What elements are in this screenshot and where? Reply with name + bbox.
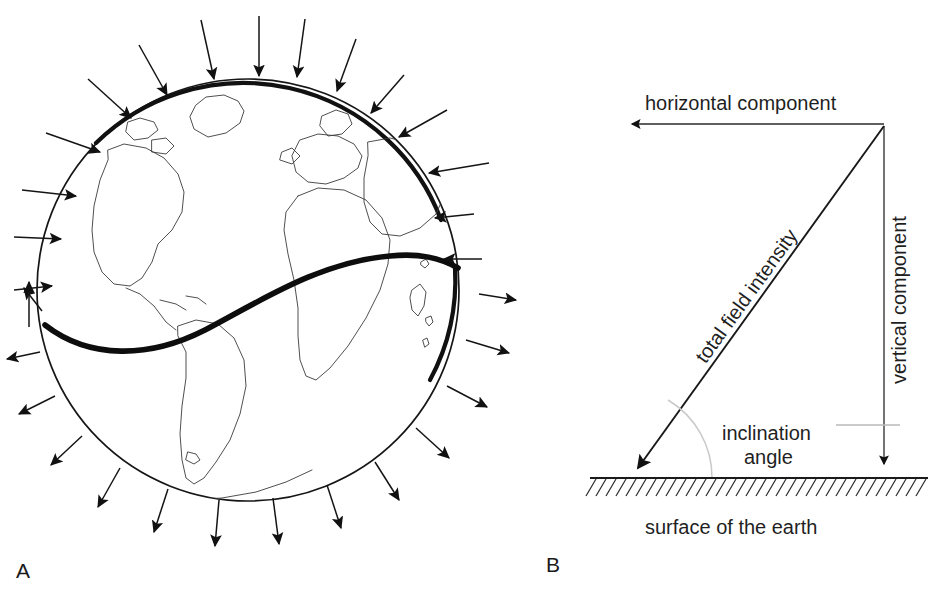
inclination-angle-label-line2: angle	[744, 446, 793, 468]
field-arrow-out	[416, 428, 449, 458]
globe-group: A	[7, 16, 516, 582]
magnetic-field-figure: A	[0, 0, 939, 601]
field-arrow-out	[375, 462, 399, 500]
field-arrow-out	[154, 489, 168, 532]
ground-hatching	[586, 479, 926, 496]
surface-of-the-earth-label: surface of the earth	[645, 516, 817, 538]
total-field-intensity-label: total field intensity	[691, 225, 802, 367]
field-arrow-in	[46, 133, 100, 152]
field-arrow-in	[201, 20, 214, 79]
field-arrow-in	[297, 19, 305, 77]
panel-a-label: A	[16, 559, 30, 582]
field-arrow-in	[139, 45, 167, 95]
total-field-intensity-arrow	[638, 126, 884, 468]
field-arrow-out	[19, 396, 55, 414]
field-arrow-out	[447, 386, 487, 407]
vector-diagram-group: horizontal component vertical component …	[546, 92, 928, 576]
globe-outline	[37, 79, 459, 501]
panel-b-label: B	[546, 553, 560, 576]
field-arrow-out	[273, 498, 279, 544]
field-arrow-out	[98, 468, 120, 507]
horizontal-component-label: horizontal component	[645, 92, 837, 114]
field-arrow-out	[466, 340, 509, 353]
field-arrow-in	[337, 39, 356, 91]
field-arrow-out	[7, 352, 40, 359]
vertical-component-label: vertical component	[888, 216, 910, 384]
field-arrow-in	[399, 110, 447, 137]
field-arrow-out	[215, 500, 219, 546]
field-arrow-in	[371, 75, 404, 113]
field-arrow-in	[429, 163, 489, 173]
field-arrow-out	[327, 485, 341, 528]
inclination-angle-label-line1: inclination	[722, 422, 811, 444]
field-arrow-in	[88, 79, 131, 118]
inclination-angle-arc	[668, 400, 712, 478]
field-arrow-out	[479, 294, 516, 300]
figure-canvas: A	[0, 0, 939, 601]
field-arrow-out	[51, 436, 82, 465]
